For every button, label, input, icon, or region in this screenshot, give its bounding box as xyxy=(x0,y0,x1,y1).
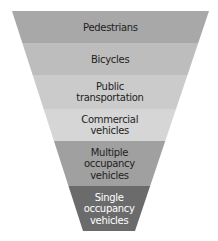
funnel-level: Publictransportation xyxy=(33,75,188,109)
funnel-level-label: transportation xyxy=(76,92,143,103)
funnel-level-label: vehicles xyxy=(90,215,129,226)
funnel-level-label: Multiple xyxy=(91,147,128,158)
funnel-level: Singleoccupancyvehicles xyxy=(68,186,150,231)
funnel-level-label: Pedestrians xyxy=(83,22,138,33)
funnel-level-label: vehicles xyxy=(90,170,129,181)
funnel-level-label: Bicycles xyxy=(91,54,129,65)
funnel-level-label: vehicles xyxy=(91,125,130,136)
funnel-level: Pedestrians xyxy=(12,11,209,43)
funnel-level: Bicycles xyxy=(22,43,198,75)
funnel-level-label: occupancy xyxy=(84,158,135,169)
funnel-level: Multipleoccupancyvehicles xyxy=(54,141,165,186)
funnel-diagram: PedestriansBicyclesPublictransportationC… xyxy=(0,0,218,241)
funnel-level-label: Public xyxy=(96,81,124,92)
funnel-level-label: occupancy xyxy=(84,203,135,214)
funnel-level-label: Commercial xyxy=(81,114,138,125)
funnel-level-label: Single xyxy=(95,192,124,203)
funnel-level: Commercialvehicles xyxy=(44,109,176,141)
